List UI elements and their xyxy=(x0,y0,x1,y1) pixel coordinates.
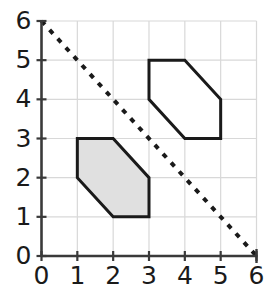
x-axis-tick-label: 3 xyxy=(137,263,161,288)
y-axis-tick-label: 5 xyxy=(8,47,32,72)
x-axis-tick-label: 0 xyxy=(30,263,54,288)
y-axis-tick-label: 6 xyxy=(8,8,32,33)
x-axis-tick-label: 1 xyxy=(65,263,89,288)
y-axis-tick-label: 1 xyxy=(8,204,32,229)
shaded-hexagon xyxy=(77,139,149,217)
x-axis-tick-label: 2 xyxy=(101,263,125,288)
y-axis-tick-label: 3 xyxy=(8,126,32,151)
axis-ticks-group xyxy=(37,21,257,261)
y-axis-tick-label: 2 xyxy=(8,165,32,190)
x-axis-tick-label: 5 xyxy=(209,263,233,288)
outline-hexagon xyxy=(149,60,221,138)
y-axis-tick-label: 4 xyxy=(8,86,32,111)
x-axis-tick-label: 6 xyxy=(245,263,269,288)
y-axis-tick-label: 0 xyxy=(8,243,32,268)
x-axis-tick-label: 4 xyxy=(173,263,197,288)
